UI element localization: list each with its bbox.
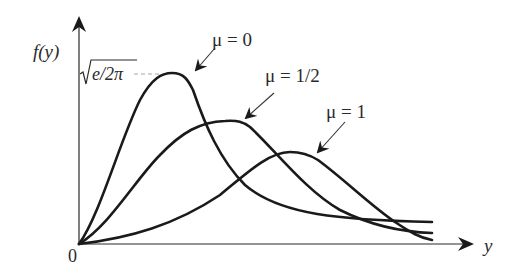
curve-mu-0 — [79, 73, 432, 244]
peak-value-annotation: e/2π — [80, 60, 164, 84]
curve-mu-half — [79, 121, 432, 244]
peak-value-label: e/2π — [92, 64, 124, 84]
pointer-mu-1 — [318, 122, 345, 152]
pointer-mu-0 — [196, 48, 215, 70]
label-mu-1: μ = 1 — [326, 101, 366, 122]
curve-mu-1 — [79, 152, 432, 244]
label-mu-half: μ = 1/2 — [265, 65, 320, 86]
label-mu-0: μ = 0 — [212, 29, 252, 50]
y-axis-label: f(y) — [33, 41, 59, 63]
pointer-mu-half — [246, 93, 274, 118]
axes — [72, 16, 474, 251]
origin-label: 0 — [68, 246, 77, 266]
x-axis-label: y — [482, 235, 493, 256]
chart-canvas: f(y) y 0 e/2π μ = 0 μ = 1/2 μ = 1 — [0, 0, 528, 276]
